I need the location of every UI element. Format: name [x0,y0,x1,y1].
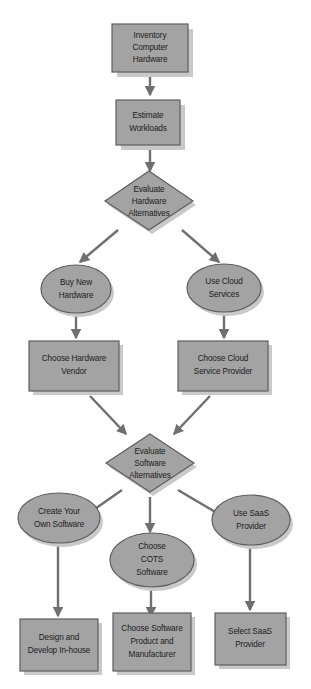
node-label-line: Vendor [61,367,87,376]
node-select-saas-provider[interactable]: Select SaaS Provider [215,613,286,665]
node-label-line: Create Your [38,507,81,516]
node-label-line: Inventory [134,31,168,40]
node-shape-ellipse [18,493,100,543]
node-label-line: Buy New [60,278,92,287]
node-label-line: Hardware [133,55,168,64]
node-label-line: Choose Cloud [198,354,249,363]
flowchart-canvas: Inventory Computer Hardware Estimate Wor… [0,0,311,689]
node-inventory-computer-hardware[interactable]: Inventory Computer Hardware [112,24,188,72]
node-label-line: Choose [138,542,166,551]
node-label-line: Provider [235,640,265,649]
node-create-your-own-software[interactable]: Create Your Own Software [18,493,100,543]
node-buy-new-hardware[interactable]: Buy New Hardware [41,265,111,313]
node-choose-cloud-service-provider[interactable]: Choose Cloud Service Provider [178,341,268,391]
node-label-line: Hardware [132,197,167,206]
node-shape-rectangle [116,100,180,145]
node-label-line: Develop In-house [28,646,91,655]
node-shape-ellipse [212,495,290,545]
edge-evaluate-hardware-buy-new [80,230,118,262]
node-estimate-workloads[interactable]: Estimate Workloads [116,100,180,145]
node-design-and-develop-in-house[interactable]: Design and Develop In-house [20,619,98,671]
node-label-line: Services [209,290,240,299]
node-label-line: Use Cloud [205,277,243,286]
node-label-line: Choose Hardware [42,354,107,363]
node-label-line: Estimate [132,111,164,120]
node-label-line: Software [134,459,166,468]
node-label-line: Service Provider [194,367,253,376]
node-label-line: Software [136,568,168,577]
node-label-line: COTS [141,555,164,564]
node-evaluate-software-alternatives[interactable]: Evaluate Software Alternatives [106,434,194,492]
node-label-line: Product and [130,637,174,646]
node-label-line: Manufacturer [128,650,175,659]
node-label-line: Alternatives [128,209,170,218]
node-label-line: Select SaaS [228,627,273,636]
node-label-line: Use SaaS [233,509,270,518]
flowchart-svg: Inventory Computer Hardware Estimate Wor… [0,0,311,689]
node-label-line: Design and [39,633,80,642]
node-label-line: Own Software [34,520,85,529]
node-choose-software-product-and-manufacturer[interactable]: Choose Software Product and Manufacturer [113,613,191,671]
node-label-line: Evaluate [134,447,166,456]
edge-evaluate-hardware-use-cloud [182,230,219,262]
node-use-cloud-services[interactable]: Use Cloud Services [187,264,261,312]
node-shape-rectangle [178,341,268,391]
node-evaluate-hardware-alternatives[interactable]: Evaluate Hardware Alternatives [105,171,193,230]
node-shape-rectangle [29,341,119,391]
node-choose-cots-software[interactable]: Choose COTS Software [110,533,194,587]
node-label-line: Workloads [129,124,167,133]
node-shape-rectangle [215,613,286,665]
node-label-line: Evaluate [133,185,165,194]
edge-choose-vendor-evaluate-software [90,396,126,434]
node-label-line: Provider [236,522,266,531]
node-shape-rectangle [20,619,98,671]
node-label-line: Choose Software [121,624,183,633]
node-label-line: Computer [132,43,168,52]
node-shape-ellipse [41,265,111,313]
node-label-line: Alternatives [129,471,171,480]
node-label-line: Hardware [59,291,94,300]
node-shape-ellipse [187,264,261,312]
edge-choose-provider-evaluate-software [174,396,210,434]
node-choose-hardware-vendor[interactable]: Choose Hardware Vendor [29,341,119,391]
node-use-saas-provider[interactable]: Use SaaS Provider [212,495,290,545]
